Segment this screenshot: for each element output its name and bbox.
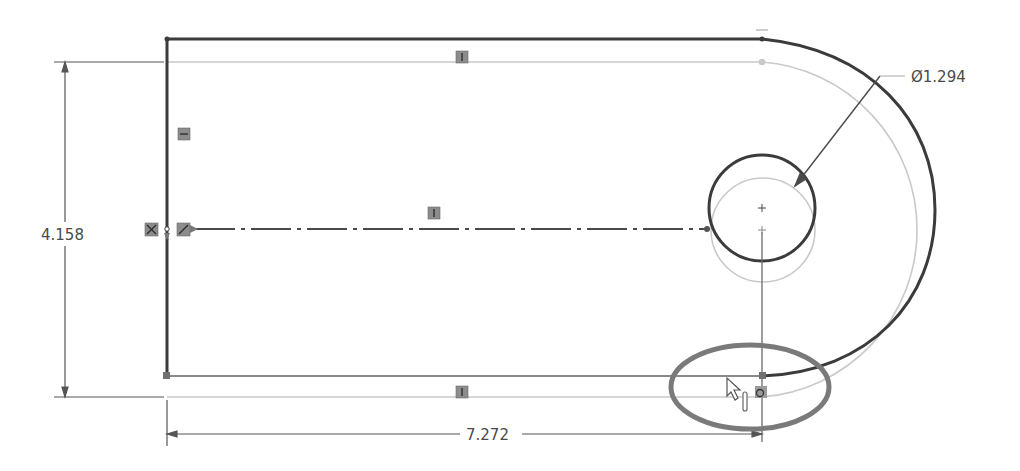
arrow-right-icon (752, 431, 762, 437)
endpoint-centerline-left[interactable] (165, 227, 169, 231)
endpoint-centerline-right[interactable] (704, 226, 710, 232)
endpoint-bottom-right[interactable] (759, 372, 766, 379)
arrow-down-icon (62, 387, 68, 397)
arrow-down-small-icon (164, 233, 170, 240)
sketch-points (163, 30, 768, 379)
relation-midpoint-left-icon[interactable] (177, 223, 190, 236)
circle-center-icon (758, 204, 766, 212)
dimension-diameter-label[interactable]: Ø1.294 (911, 68, 966, 86)
endpoint-top-left[interactable] (165, 37, 170, 42)
arrow-left-icon (167, 431, 177, 437)
relation-horizontal-bottom-icon[interactable] (456, 386, 468, 398)
dimension-width[interactable] (167, 400, 762, 446)
relation-vertical-left-icon[interactable] (178, 128, 190, 140)
dimension-height-label[interactable]: 4.158 (41, 226, 84, 244)
relation-horizontal-top-icon[interactable] (456, 51, 468, 63)
coincident-inference-icon (755, 386, 767, 398)
endpoint-bottom-left[interactable] (163, 372, 170, 379)
arrow-up-icon (62, 62, 68, 72)
relation-horizontal-centerline-icon[interactable] (428, 207, 440, 219)
dimension-width-label[interactable]: 7.272 (466, 426, 509, 444)
preview-center-icon (758, 226, 766, 234)
endpoint-top-right[interactable] (760, 37, 765, 42)
relation-coincident-left-icon[interactable] (145, 223, 158, 236)
cursor-line-tool-icon (743, 392, 747, 411)
leader-line (795, 76, 880, 186)
sketch-canvas[interactable]: 4.158 7.272 Ø1.294 (0, 0, 1020, 471)
center-marks (758, 204, 766, 234)
outer-arc[interactable] (762, 39, 935, 376)
arrow-right-small-icon (190, 225, 198, 233)
